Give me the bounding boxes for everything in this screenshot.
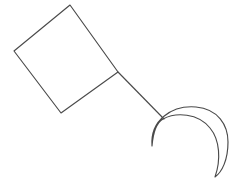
drawing-canvas bbox=[0, 0, 244, 186]
canvas-background bbox=[0, 0, 244, 186]
line-drawing bbox=[0, 0, 244, 186]
